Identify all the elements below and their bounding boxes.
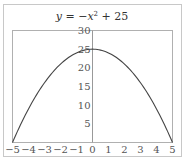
- x-tick-label: −2: [53, 144, 68, 155]
- y-tick-label: 30: [78, 25, 91, 36]
- y-tick-label: 5: [84, 118, 90, 129]
- x-tick-label: 1: [105, 144, 111, 155]
- x-tick-label: 5: [169, 144, 175, 155]
- x-tick-label: 2: [121, 144, 127, 155]
- x-tick-label: −3: [37, 144, 52, 155]
- y-tick-label: 10: [78, 100, 91, 111]
- x-tick-label: 4: [153, 144, 159, 155]
- x-tick-label: 3: [137, 144, 143, 155]
- x-tick-label: 0: [89, 144, 95, 155]
- x-tick-label: −5: [5, 144, 20, 155]
- y-tick-label: 15: [78, 81, 91, 92]
- x-tick-label: −1: [69, 144, 84, 155]
- x-tick-label: −4: [21, 144, 36, 155]
- y-tick-label: 20: [78, 62, 91, 73]
- chart-title: y = −x2 + 25: [55, 10, 129, 23]
- chart: y = −x2 + 25 −5−4−3−2−101234551015202530: [0, 0, 186, 160]
